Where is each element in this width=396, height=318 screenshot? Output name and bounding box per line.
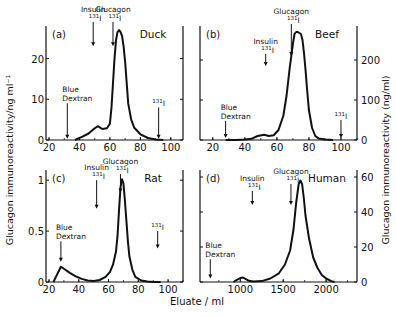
x-tick-label: 80 (134, 142, 147, 153)
y-tick-label: 1 (38, 175, 44, 186)
x-tick-label: 2000 (313, 284, 338, 295)
isotope-label: 131I (152, 98, 165, 108)
arrowhead-icon (157, 135, 161, 139)
y-tick-label: 0 (361, 277, 367, 288)
panel-human: 1000150020000204060(d)HumanBlueDextranIn… (200, 167, 374, 295)
isotope-label: 131I (335, 111, 348, 121)
elution-curve (75, 30, 163, 140)
x-tick-label: 60 (102, 284, 115, 295)
panel-rat: 2040608010000.51(c)RatBlueDextranInsulin… (28, 157, 183, 295)
x-tick-label: 40 (72, 284, 85, 295)
y-tick-label: 40 (361, 207, 374, 218)
species-title: Duck (140, 28, 168, 40)
panels: 2040608010001020(a)DuckBlueDextranInsuli… (28, 5, 380, 295)
marker-131i: 131I (151, 222, 164, 248)
marker-label: Blue (221, 103, 238, 112)
y-tick-label: 100 (361, 95, 380, 106)
marker-glucagon: Glucagon131I (95, 5, 131, 46)
x-tick-label: 20 (43, 284, 56, 295)
marker-blue: BlueDextran (62, 85, 92, 138)
species-title: Human (308, 172, 346, 184)
panel-beef: 204060801000100200(b)BeefBlueDextranInsu… (200, 7, 380, 153)
x-tick-label: 1500 (270, 284, 295, 295)
marker-blue: BlueDextran (56, 223, 86, 261)
marker-blue: BlueDextran (221, 103, 251, 138)
figure-canvas: 2040608010001020(a)DuckBlueDextranInsuli… (0, 0, 396, 318)
x-tick-label: 80 (303, 142, 316, 153)
marker-131i: 131I (335, 111, 348, 138)
arrowhead-icon (250, 201, 254, 205)
elution-curve (226, 32, 333, 140)
isotope-label: 131I (287, 15, 300, 25)
x-tick-label: 60 (271, 142, 284, 153)
x-tick-label: 40 (73, 142, 86, 153)
species-title: Beef (315, 28, 339, 40)
marker-label: Dextran (205, 250, 235, 259)
arrowhead-icon (91, 42, 95, 46)
arrowhead-icon (289, 201, 293, 205)
isotope-label: 131I (116, 165, 129, 175)
marker-insulin: Insulin131I (253, 37, 278, 66)
y-tick-label: 0 (361, 135, 367, 146)
panel-label: (c) (52, 173, 65, 184)
arrowhead-icon (264, 62, 268, 66)
y-tick-label: 200 (361, 55, 380, 66)
arrowhead-icon (339, 134, 343, 138)
right-y-axis-label: Glucagon immunoreactivity (ng/ml) (380, 75, 391, 244)
marker-131i: 131I (152, 98, 165, 138)
marker-glucagon: Glucagon131I (103, 157, 139, 192)
y-tick-label: 20 (361, 242, 374, 253)
marker-label: Dextran (56, 232, 86, 241)
x-tick-label: 40 (238, 142, 251, 153)
isotope-label: 131I (287, 175, 300, 185)
y-tick-label: 20 (31, 54, 44, 65)
x-axis-label: Eluate / ml (170, 296, 224, 307)
y-tick-label: 0 (38, 135, 44, 146)
x-tick-label: 100 (159, 284, 178, 295)
arrowhead-icon (156, 244, 160, 248)
panel-duck: 2040608010001020(a)DuckBlueDextranInsuli… (31, 5, 183, 153)
isotope-label: 131I (89, 13, 102, 23)
panel-label: (a) (52, 29, 66, 40)
x-tick-label: 20 (206, 142, 219, 153)
marker-insulin: Insulin131I (240, 174, 265, 205)
isotope-label: 131I (151, 222, 164, 232)
y-tick-label: 10 (31, 94, 44, 105)
arrowhead-icon (95, 205, 99, 209)
arrowhead-icon (65, 135, 69, 139)
arrowhead-icon (111, 42, 115, 46)
panel-label: (b) (206, 29, 220, 40)
marker-label: Blue (56, 223, 73, 232)
x-tick-label: 100 (161, 142, 180, 153)
marker-label: Dextran (62, 94, 92, 103)
isotope-label: 131I (109, 13, 122, 23)
arrowhead-icon (59, 258, 63, 262)
left-y-axis-label: Glucagon immunoreactivity/ng ml⁻¹ (4, 75, 15, 246)
isotope-label: 131I (92, 171, 105, 181)
y-tick-label: 0.5 (28, 226, 44, 237)
y-tick-label: 0 (38, 277, 44, 288)
x-tick-label: 80 (132, 284, 145, 295)
marker-label: Blue (205, 241, 222, 250)
arrowhead-icon (208, 275, 212, 279)
x-tick-label: 60 (104, 142, 117, 153)
panel-label: (d) (206, 173, 220, 184)
x-tick-label: 100 (331, 142, 350, 153)
elution-curve (234, 181, 335, 283)
marker-label: Dextran (221, 112, 251, 121)
marker-label: Blue (62, 85, 79, 94)
arrowhead-icon (118, 188, 122, 192)
species-title: Rat (144, 172, 162, 184)
y-tick-label: 60 (361, 172, 374, 183)
x-tick-label: 1000 (228, 284, 253, 295)
x-tick-label: 20 (43, 142, 56, 153)
isotope-label: 131I (261, 45, 274, 55)
arrowhead-icon (289, 52, 293, 56)
isotope-label: 131I (248, 182, 261, 192)
arrowhead-icon (224, 134, 228, 138)
marker-insulin: Insulin131I (84, 163, 109, 209)
marker-blue: BlueDextran (205, 241, 235, 278)
